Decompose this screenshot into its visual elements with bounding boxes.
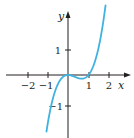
x-tick-label: −2 — [21, 80, 36, 91]
y-tick-label: 1 — [55, 45, 61, 56]
y-axis-label: y — [57, 10, 65, 23]
x-tick-label: −1 — [39, 80, 54, 91]
x-axis-arrow-icon — [124, 73, 131, 78]
x-tick-label: 1 — [86, 80, 92, 91]
cubic-curve — [46, 6, 105, 132]
y-axis-arrow-icon — [66, 11, 71, 18]
cubic-graph: −2 −1 1 2 1 −1 x y — [0, 0, 134, 138]
x-axis-label: x — [118, 79, 125, 92]
x-tick-label: 2 — [106, 80, 112, 91]
